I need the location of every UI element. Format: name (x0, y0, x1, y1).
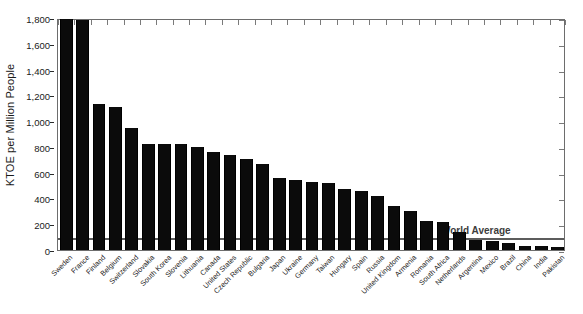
y-tick-mark (50, 174, 54, 175)
bar (93, 104, 106, 250)
top-axis-tick (189, 20, 190, 25)
bar (289, 180, 302, 250)
top-axis-tick (140, 20, 141, 25)
top-axis-tick (550, 20, 551, 25)
bar (273, 178, 286, 250)
y-tick-mark (50, 225, 54, 226)
top-axis-tick (320, 20, 321, 25)
y-tick-mark (50, 45, 54, 46)
bar (371, 196, 384, 250)
y-tick-mark (50, 19, 54, 20)
x-axis-tick-labels: SwedenFranceFinlandBelgiumSwitzerlandSlo… (57, 251, 565, 314)
top-axis-tick (517, 20, 518, 25)
bar (125, 128, 138, 250)
bar (535, 246, 548, 250)
bar (519, 246, 532, 251)
bar (551, 247, 564, 250)
bar (158, 144, 171, 250)
y-tick-label: 1,400 (26, 65, 50, 76)
bar (388, 206, 401, 250)
bar (469, 240, 482, 250)
top-axis-tick (565, 20, 566, 25)
y-tick-mark (50, 122, 54, 123)
top-axis-tick (205, 20, 206, 25)
bar (240, 159, 253, 251)
bar (224, 155, 237, 250)
top-axis-tick (222, 20, 223, 25)
bar (142, 144, 155, 250)
right-axis-tick (559, 97, 564, 98)
top-axis-tick (287, 20, 288, 25)
top-axis-tick (238, 20, 239, 25)
top-axis-tick (58, 20, 59, 25)
top-axis-tick (91, 20, 92, 25)
top-axis-tick (255, 20, 256, 25)
top-axis-tick (107, 20, 108, 25)
bar (175, 144, 188, 250)
y-tick-mark (50, 251, 54, 252)
plot-inner: World Average (58, 20, 564, 250)
bar (453, 232, 466, 250)
top-axis-tick (419, 20, 420, 25)
bar (486, 241, 499, 250)
bar (420, 221, 433, 250)
bar (306, 182, 319, 250)
top-axis-tick (337, 20, 338, 25)
top-axis-tick (353, 20, 354, 25)
top-axis-tick (124, 20, 125, 25)
bar (256, 164, 269, 250)
y-tick-label: 600 (34, 168, 50, 179)
right-axis-tick (559, 175, 564, 176)
bar (355, 191, 368, 250)
y-tick-mark (50, 96, 54, 97)
top-axis-tick (271, 20, 272, 25)
right-axis-tick (559, 226, 564, 227)
x-tick-label: China (514, 253, 534, 273)
bar (109, 107, 122, 250)
bar (207, 152, 220, 250)
y-tick-label: 200 (34, 220, 50, 231)
right-axis-tick (559, 72, 564, 73)
y-tick-label: 1,000 (26, 117, 50, 128)
top-axis-tick (402, 20, 403, 25)
top-axis-tick (468, 20, 469, 25)
bar (60, 19, 73, 250)
top-axis-tick (484, 20, 485, 25)
bar-chart-figure: KTOE per Million People 02004006008001,0… (0, 0, 583, 314)
top-axis-tick (369, 20, 370, 25)
y-tick-mark (50, 148, 54, 149)
y-axis-title: KTOE per Million People (0, 0, 20, 250)
top-axis-tick (74, 20, 75, 25)
right-axis-tick (559, 149, 564, 150)
y-tick-label: 1,200 (26, 91, 50, 102)
y-tick-mark (50, 71, 54, 72)
right-axis-tick (559, 200, 564, 201)
y-tick-label: 400 (34, 194, 50, 205)
plot-area: World Average (57, 19, 565, 251)
bar (502, 243, 515, 250)
right-axis-tick (559, 46, 564, 47)
top-axis-tick (304, 20, 305, 25)
top-axis-tick (386, 20, 387, 25)
right-axis-tick (559, 123, 564, 124)
top-axis-tick (451, 20, 452, 25)
y-tick-label: 1,800 (26, 14, 50, 25)
bar (338, 189, 351, 250)
top-axis-tick (533, 20, 534, 25)
top-axis-tick (500, 20, 501, 25)
y-tick-label: 800 (34, 142, 50, 153)
right-axis-tick (559, 20, 564, 21)
top-axis-tick (156, 20, 157, 25)
top-axis-tick (173, 20, 174, 25)
y-axis-tick-labels: 02004006008001,0001,2001,4001,6001,800 (18, 0, 54, 314)
bar (322, 183, 335, 250)
bar (404, 211, 417, 250)
x-tick-label: Brazil (498, 253, 517, 272)
bar (76, 20, 89, 250)
bar (191, 147, 204, 250)
y-tick-label: 1,600 (26, 39, 50, 50)
world-average-label: World Average (441, 225, 511, 236)
top-axis-tick (435, 20, 436, 25)
bar (437, 222, 450, 250)
y-axis-title-text: KTOE per Million People (4, 64, 16, 187)
